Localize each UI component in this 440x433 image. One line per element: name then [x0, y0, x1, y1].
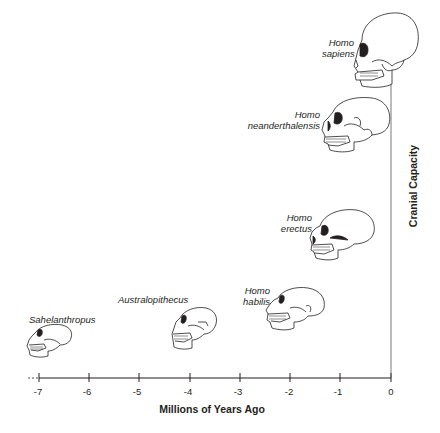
skull-homo-neanderthalensis-icon	[322, 98, 390, 152]
label-homo-erectus: Homo erectus	[270, 212, 312, 234]
x-tick-label: -2	[285, 386, 293, 397]
cranial-capacity-chart: Homo sapiens Homo neanderthalensis Homo …	[0, 0, 440, 433]
skull-homo-habilis-icon	[266, 287, 324, 329]
label-line: sapiens	[322, 48, 354, 59]
label-homo-habilis: Homo habilis	[230, 285, 270, 307]
x-axis	[28, 373, 391, 382]
x-tick-label: -4	[184, 386, 192, 397]
x-tick-label: -7	[34, 386, 42, 397]
x-axis-title-text: Millions of Years Ago	[159, 403, 265, 415]
label-australopithecus: Australopithecus	[118, 294, 188, 305]
x-tick-label: 0	[388, 386, 393, 397]
x-tick-label: -1	[334, 386, 342, 397]
x-tick-label: -6	[83, 386, 91, 397]
skull-homo-sapiens-icon	[354, 13, 418, 87]
label-line: Homo	[230, 285, 270, 296]
label-line: Homo	[240, 109, 320, 120]
skull-australopithecus-icon	[172, 307, 217, 349]
label-homo-neanderthalensis: Homo neanderthalensis	[240, 109, 320, 131]
label-line: neanderthalensis	[240, 120, 320, 131]
y-axis-title: Cranial Capacity	[407, 145, 419, 227]
x-tick-label: -5	[133, 386, 141, 397]
label-sahelanthropus: Sahelanthropus	[29, 314, 96, 325]
chart-graphics	[0, 0, 440, 433]
label-line: Homo	[322, 37, 354, 48]
label-line: habilis	[230, 296, 270, 307]
skull-homo-erectus-icon	[310, 210, 374, 260]
label-homo-sapiens: Homo sapiens	[322, 37, 354, 59]
x-axis-title: Millions of Years Ago	[0, 403, 440, 415]
skull-sahelanthropus-icon	[27, 324, 72, 357]
label-line: erectus	[270, 223, 312, 234]
label-line: Homo	[270, 212, 312, 223]
x-tick-label: -3	[234, 386, 242, 397]
